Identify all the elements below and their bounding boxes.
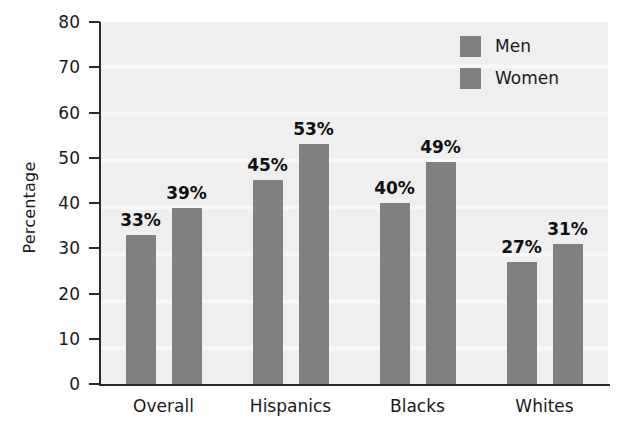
y-axis-tick-label: 30 — [36, 238, 80, 258]
bar-value-label: 45% — [247, 155, 288, 175]
x-axis-category-label: Whites — [515, 396, 573, 416]
y-axis-line — [99, 22, 101, 386]
bar — [253, 180, 283, 384]
bar-chart: Percentage 80706050403020100 Men Women 3… — [0, 0, 626, 434]
plot-area: Men Women — [100, 22, 608, 384]
x-axis-line — [99, 384, 610, 386]
y-axis-tick-label: 10 — [36, 329, 80, 349]
bar-value-label: 49% — [420, 137, 461, 157]
bar-value-label: 40% — [374, 178, 415, 198]
bar — [380, 203, 410, 384]
legend-label-women: Women — [495, 68, 559, 88]
bar — [426, 162, 456, 384]
bar — [126, 235, 156, 384]
bar-value-label: 27% — [501, 237, 542, 257]
legend-label-men: Men — [495, 36, 531, 56]
x-axis-category-label: Blacks — [390, 396, 445, 416]
legend-swatch-men — [460, 36, 481, 57]
bar-value-label: 31% — [547, 219, 588, 239]
bar — [299, 144, 329, 384]
x-axis-category-label: Overall — [133, 396, 194, 416]
legend: Men Women — [460, 30, 559, 94]
bar-value-label: 39% — [166, 183, 207, 203]
legend-swatch-women — [460, 68, 481, 89]
bar — [553, 244, 583, 384]
bar-value-label: 53% — [293, 119, 334, 139]
y-axis-tick-label: 0 — [36, 374, 80, 394]
legend-item-men: Men — [460, 30, 559, 62]
y-axis-tick-label: 70 — [36, 57, 80, 77]
y-axis-tick-label: 40 — [36, 193, 80, 213]
bar — [507, 262, 537, 384]
x-axis-category-label: Hispanics — [250, 396, 331, 416]
bar — [172, 208, 202, 384]
y-axis-tick-label: 80 — [36, 12, 80, 32]
y-axis-tick-label: 20 — [36, 284, 80, 304]
bar-value-label: 33% — [120, 210, 161, 230]
y-axis-tick-label: 50 — [36, 148, 80, 168]
legend-item-women: Women — [460, 62, 559, 94]
y-axis-tick-label: 60 — [36, 103, 80, 123]
